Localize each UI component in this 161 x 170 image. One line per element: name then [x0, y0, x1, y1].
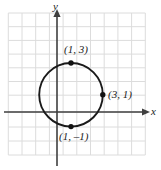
point-label-1-3: (1, 3) — [64, 43, 88, 55]
graph-canvas — [0, 0, 161, 170]
circle-graph-figure: (1, 3) (3, 1) (1, –1) y x — [0, 0, 161, 170]
point-label-1-neg1: (1, –1) — [59, 130, 88, 142]
point-3-1 — [100, 92, 105, 97]
y-axis — [53, 9, 60, 166]
y-axis-label: y — [53, 0, 58, 12]
x-axis-label: x — [151, 105, 156, 117]
point-1-3 — [68, 60, 73, 65]
point-1-neg1 — [68, 124, 73, 129]
point-label-3-1: (3, 1) — [108, 88, 132, 100]
